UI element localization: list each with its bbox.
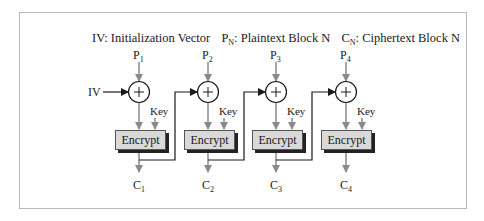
ciphertext-label-3: C3 bbox=[270, 179, 282, 191]
key-label-1: Key bbox=[150, 105, 168, 117]
plaintext-label-2: P2 bbox=[202, 49, 213, 61]
key-label-4: Key bbox=[357, 105, 375, 117]
key-label-3: Key bbox=[287, 105, 305, 117]
plaintext-label-1: P1 bbox=[133, 49, 144, 61]
plaintext-label-3: P3 bbox=[270, 49, 281, 61]
ciphertext-label-2: C2 bbox=[202, 179, 214, 191]
iv-input-label: IV bbox=[88, 86, 101, 98]
ciphertext-label-4: C4 bbox=[340, 179, 352, 191]
key-label-2: Key bbox=[219, 105, 237, 117]
encrypt-box-1: Encrypt bbox=[115, 130, 166, 150]
encrypt-box-3: Encrypt bbox=[252, 130, 303, 150]
plaintext-label-4: P4 bbox=[340, 49, 351, 61]
encrypt-box-4: Encrypt bbox=[321, 130, 372, 150]
encrypt-box-2: Encrypt bbox=[184, 130, 235, 150]
diagram-lines bbox=[0, 0, 484, 221]
ciphertext-label-1: C1 bbox=[133, 179, 145, 191]
